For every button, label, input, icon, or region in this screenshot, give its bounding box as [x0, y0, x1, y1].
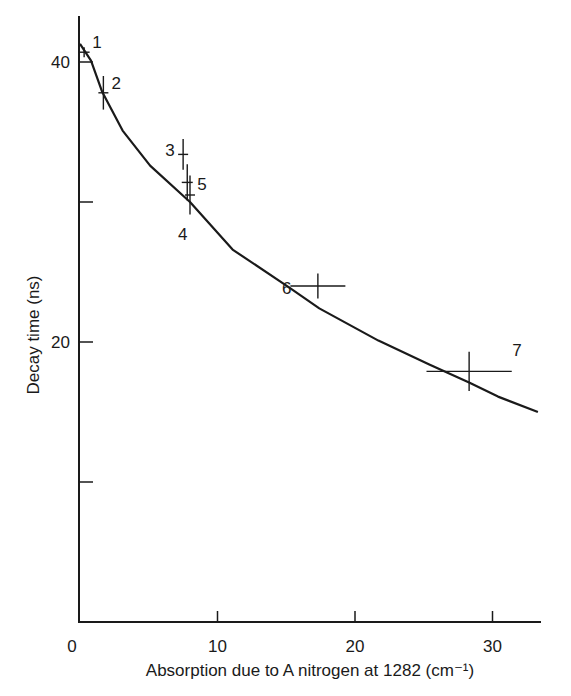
data-point-6: 6	[282, 273, 346, 298]
y-axis-title: Decay time (ns)	[24, 275, 43, 394]
y-tick-label: 40	[51, 53, 70, 72]
point-label: 4	[178, 225, 187, 244]
axes: 01020302040	[51, 16, 541, 656]
chart: 01020302040 1234567 Absorption due to A …	[0, 0, 571, 696]
point-label: 7	[512, 341, 521, 360]
data-point-7: 7	[427, 341, 522, 391]
data-point-4: 4	[178, 175, 195, 244]
data-points: 1234567	[79, 33, 522, 391]
point-label: 5	[197, 175, 206, 194]
x-tick-label: 10	[208, 637, 227, 656]
point-label: 3	[165, 141, 174, 160]
data-point-3: 3	[165, 139, 188, 170]
x-tick-label: 0	[67, 637, 76, 656]
y-tick-label: 20	[51, 333, 70, 352]
x-tick-label: 20	[346, 637, 365, 656]
point-label: 2	[111, 74, 120, 93]
axis-labels: Absorption due to A nitrogen at 1282 (cm…	[24, 275, 474, 680]
point-label: 1	[92, 33, 101, 52]
point-label: 6	[282, 279, 291, 298]
x-tick-label: 30	[483, 637, 502, 656]
x-axis-title: Absorption due to A nitrogen at 1282 (cm…	[146, 661, 474, 680]
